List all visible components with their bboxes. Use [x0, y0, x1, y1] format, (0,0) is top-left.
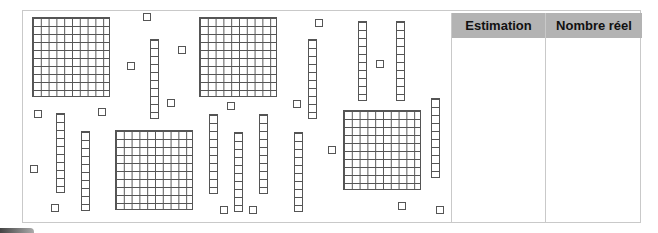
estimation-header: Estimation: [452, 13, 545, 38]
unit-cube-block: [51, 204, 59, 212]
estimation-cell[interactable]: [452, 38, 545, 223]
unit-cube-block: [34, 110, 42, 118]
ten-rod-block: [259, 114, 268, 194]
unit-cube-block: [376, 60, 384, 68]
hundred-flat-block: [32, 17, 110, 97]
unit-cube-block: [143, 13, 151, 21]
unit-cube-block: [249, 206, 257, 214]
unit-cube-block: [127, 62, 135, 70]
ten-rod-block: [234, 132, 243, 212]
unit-cube-block: [167, 99, 175, 107]
unit-cube-block: [30, 165, 38, 173]
unit-cube-block: [315, 19, 323, 27]
actual-number-column: Nombre réel: [546, 13, 642, 223]
base-ten-blocks-area: [0, 0, 451, 233]
page-edge-decoration: [0, 228, 34, 233]
unit-cube-block: [398, 202, 406, 210]
unit-cube-block: [293, 100, 301, 108]
unit-cube-block: [328, 146, 336, 154]
actual-number-cell[interactable]: [546, 38, 642, 223]
ten-rod-block: [81, 131, 90, 211]
ten-rod-block: [294, 132, 303, 212]
ten-rod-block: [431, 98, 440, 178]
ten-rod-block: [308, 39, 317, 119]
unit-cube-block: [227, 102, 235, 110]
unit-cube-block: [436, 206, 444, 214]
unit-cube-block: [178, 46, 186, 54]
unit-cube-block: [220, 206, 228, 214]
unit-cube-block: [98, 108, 106, 116]
answer-table: Estimation Nombre réel: [451, 13, 642, 223]
hundred-flat-block: [115, 130, 193, 210]
ten-rod-block: [209, 114, 218, 194]
estimation-column: Estimation: [452, 13, 546, 223]
ten-rod-block: [150, 39, 159, 119]
hundred-flat-block: [343, 110, 421, 190]
ten-rod-block: [358, 21, 367, 101]
actual-number-header: Nombre réel: [546, 13, 642, 38]
ten-rod-block: [396, 21, 405, 101]
ten-rod-block: [56, 113, 65, 193]
hundred-flat-block: [199, 17, 277, 97]
